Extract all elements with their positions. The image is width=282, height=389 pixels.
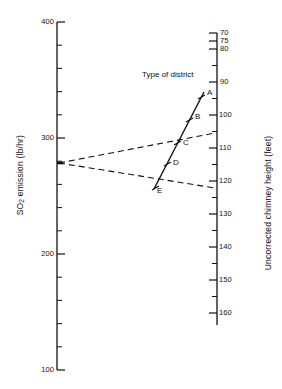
district-scale-ticks [152,95,205,190]
district-point-label-c: C [183,138,189,147]
right-tick-label-100: 100 [219,110,232,119]
right-tick-label-110: 110 [219,143,231,152]
left-tick-label-300: 300 [26,133,54,142]
lower-tie-line [59,163,215,188]
upper-tie-line [59,133,215,163]
district-scale-line [154,92,204,189]
right-tick-label-130: 130 [219,209,232,218]
district-point-label-d: D [173,158,179,167]
nomogram-chart [0,0,282,389]
right-tick-label-80: 80 [220,44,229,53]
district-point-label-e: E [157,186,162,195]
right-tick-label-160: 160 [219,308,232,317]
right-tick-label-140: 140 [219,242,232,251]
right-tick-label-90: 90 [220,77,229,86]
right-tick-label-120: 120 [219,176,232,185]
district-point-label-a: A [207,88,212,97]
left-axis-title-prefix: SO [15,203,25,216]
left-tick-label-400: 400 [26,17,54,26]
right-tick-label-150: 150 [219,275,232,284]
district-scale-title: Type of district [142,70,194,79]
left-tick-label-100: 100 [26,365,54,374]
left-axis-title: SO2 emission (lb/hr) [15,115,25,235]
left-axis-minor-ticks [57,45,62,347]
right-axis-title: Uncorrected chimney height (feet) [263,123,273,283]
district-point-label-b: B [195,112,200,121]
left-axis-major-ticks [57,22,65,370]
left-axis-title-subscript: 2 [18,199,25,203]
left-tick-label-200: 200 [26,249,54,258]
left-axis-title-suffix: emission (lb/hr) [15,135,25,199]
right-axis-ticks [209,33,217,313]
